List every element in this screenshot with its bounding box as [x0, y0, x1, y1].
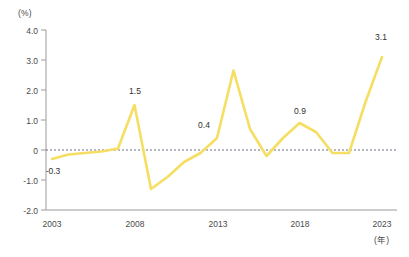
y-axis-ticks	[41, 30, 46, 210]
axes-group	[41, 30, 397, 210]
data-series-line	[52, 57, 382, 189]
plot-area	[0, 0, 409, 257]
line-chart: (%) (年) 4.0 3.0 2.0 1.0 0 -1.0 -2.0 2003…	[0, 0, 409, 257]
